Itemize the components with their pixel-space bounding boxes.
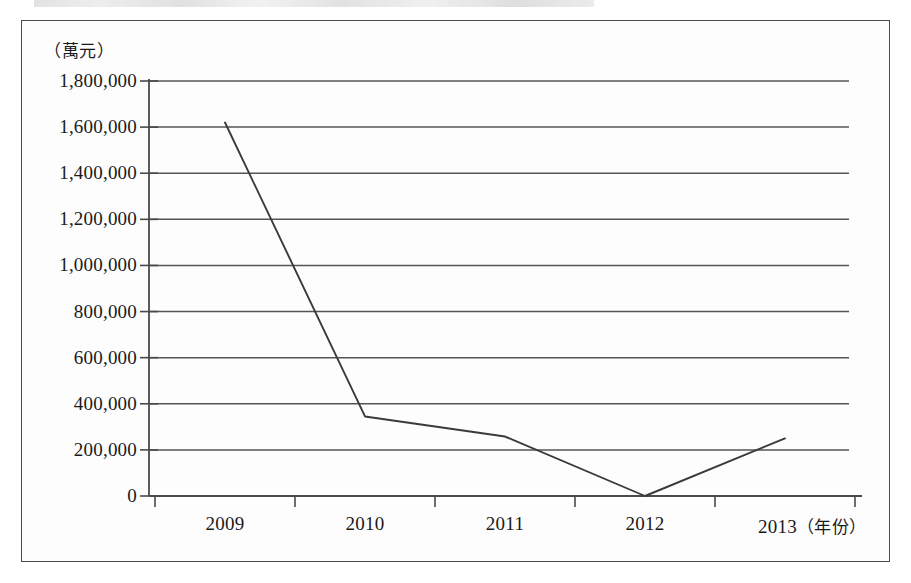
data-series-line-group: [225, 123, 785, 497]
chart-plot-area: （萬元） 1,800,0001,600,0001,400,0001,200,00…: [22, 21, 891, 563]
x-axis-tick-year: 2009: [205, 513, 244, 534]
x-axis-tick-year: 2010: [345, 513, 384, 534]
x-axis-tick-label: 2010: [345, 513, 384, 535]
x-axis-ticks-group: [155, 496, 855, 507]
chart-frame: （萬元） 1,800,0001,600,0001,400,0001,200,00…: [21, 20, 890, 562]
axes-group: [140, 79, 862, 496]
gridlines-group: [149, 81, 849, 450]
x-axis-tick-year: 2013: [758, 516, 797, 537]
x-axis-tick-year: 2012: [625, 513, 664, 534]
line-chart-svg: [22, 21, 891, 563]
x-axis-tick-year: 2011: [486, 513, 525, 534]
x-axis-unit-label: （年份）: [797, 517, 866, 537]
scan-artifact-top: [34, 0, 594, 7]
x-axis-tick-label: 2009: [205, 513, 244, 535]
x-axis-tick-label: 2012: [625, 513, 664, 535]
x-axis-tick-label: 2013（年份）: [758, 513, 866, 538]
data-series-polyline: [225, 123, 785, 497]
x-axis-tick-label: 2011: [486, 513, 525, 535]
